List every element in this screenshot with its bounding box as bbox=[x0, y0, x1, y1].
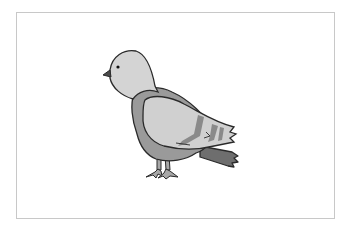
pigeon-beak bbox=[103, 70, 111, 77]
pigeon-illustration bbox=[0, 0, 351, 232]
pigeon-eye bbox=[116, 65, 119, 68]
pigeon-tail bbox=[200, 146, 238, 167]
